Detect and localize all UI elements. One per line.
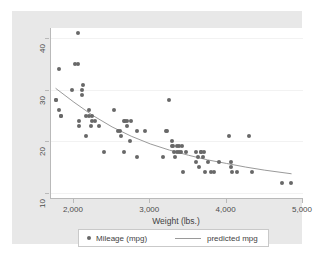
data-point	[179, 150, 183, 154]
y-tick-label: 10	[38, 192, 47, 214]
legend-label-mileage: Mileage (mpg)	[96, 234, 147, 243]
x-tick-label: 4,000	[206, 205, 246, 214]
x-tick-mark	[149, 199, 150, 203]
data-point	[76, 62, 80, 66]
data-point	[235, 170, 239, 174]
data-point	[201, 155, 205, 159]
fit-curve	[56, 88, 292, 174]
x-tick-label: 2,000	[53, 205, 93, 214]
data-point	[196, 155, 200, 159]
data-point	[59, 114, 63, 118]
graph-region: 10203040 2,0003,0004,0005,000 Weight (lb…	[12, 11, 302, 244]
x-axis-title: Weight (lbs.)	[50, 216, 302, 226]
legend-marker-icon	[87, 236, 91, 240]
x-tick-mark	[73, 199, 74, 203]
data-point	[202, 150, 206, 154]
data-point	[194, 160, 198, 164]
data-point	[289, 181, 293, 185]
chart-figure: 10203040 2,0003,0004,0005,000 Weight (lb…	[0, 0, 317, 255]
plot-area	[50, 28, 303, 199]
data-point	[217, 160, 221, 164]
data-point	[125, 119, 129, 123]
y-tick-label: 40	[38, 38, 47, 60]
x-tick-mark	[226, 199, 227, 203]
legend-item-predicted: predicted mpg	[175, 230, 258, 246]
data-point	[54, 98, 58, 102]
legend-item-mileage: Mileage (mpg)	[87, 230, 147, 246]
data-point	[143, 129, 147, 133]
y-tick-label: 20	[38, 141, 47, 163]
data-point	[77, 119, 81, 123]
data-point	[122, 150, 126, 154]
data-point	[247, 134, 251, 138]
data-point	[280, 181, 284, 185]
y-tick-label: 30	[38, 89, 47, 111]
data-point	[184, 150, 188, 154]
data-point	[194, 150, 198, 154]
data-point	[81, 83, 85, 87]
data-point	[97, 124, 101, 128]
data-point	[118, 129, 122, 133]
data-point	[129, 119, 133, 123]
data-point	[212, 170, 216, 174]
data-point	[57, 67, 61, 71]
x-tick-label: 5,000	[282, 205, 317, 214]
data-point	[90, 114, 94, 118]
x-tick-mark	[302, 199, 303, 203]
data-point	[76, 31, 80, 35]
data-point	[80, 93, 84, 97]
data-point	[206, 160, 210, 164]
x-tick-label: 3,000	[129, 205, 169, 214]
legend-line-icon	[175, 238, 201, 239]
chart-legend: Mileage (mpg) predicted mpg	[78, 229, 269, 247]
legend-label-predicted: predicted mpg	[207, 234, 258, 243]
